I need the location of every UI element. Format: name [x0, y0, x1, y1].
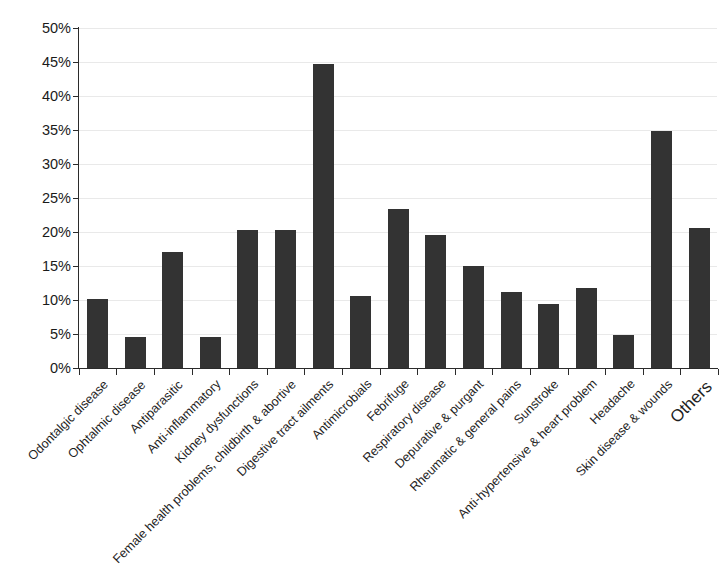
x-axis-tick [455, 369, 456, 375]
x-axis-tick [192, 369, 193, 375]
x-axis-tick [643, 369, 644, 375]
x-axis-tick [267, 369, 268, 375]
y-axis-tick-label: 25% [9, 191, 71, 206]
y-axis-tick-label: 45% [9, 55, 71, 70]
bar [651, 131, 672, 368]
bar [425, 235, 446, 368]
bar [388, 209, 409, 368]
x-axis-line [78, 368, 718, 369]
plot-area [79, 28, 717, 368]
y-axis-tick [73, 96, 79, 97]
y-axis-tick [73, 28, 79, 29]
y-axis-tick [73, 198, 79, 199]
x-axis-tick [79, 369, 80, 375]
x-axis-tick [680, 369, 681, 375]
y-axis-tick [73, 62, 79, 63]
x-axis-tick [154, 369, 155, 375]
y-axis-tick [73, 232, 79, 233]
y-axis-tick-label: 10% [9, 293, 71, 308]
gridline [79, 96, 717, 97]
bar [313, 64, 334, 368]
x-axis-tick [229, 369, 230, 375]
bar-chart: 0%5%10%15%20%25%30%35%40%45%50% Odontalg… [0, 0, 727, 582]
gridline [79, 62, 717, 63]
y-axis-tick-label: 5% [9, 327, 71, 342]
bar [350, 296, 371, 368]
x-axis-tick [116, 369, 117, 375]
x-axis-tick [417, 369, 418, 375]
x-axis-tick [342, 369, 343, 375]
y-axis-tick-label: 30% [9, 157, 71, 172]
x-axis-tick [492, 369, 493, 375]
x-axis-tick [568, 369, 569, 375]
bar [125, 337, 146, 368]
gridline [79, 164, 717, 165]
bar [275, 230, 296, 368]
y-axis-tick [73, 130, 79, 131]
x-axis-tick [605, 369, 606, 375]
bar [538, 304, 559, 368]
y-axis-tick-label: 50% [9, 21, 71, 36]
y-axis-tick [73, 334, 79, 335]
y-axis-tick-label: 40% [9, 89, 71, 104]
y-axis-tick-label: 20% [9, 225, 71, 240]
bar [689, 228, 710, 368]
y-axis-tick [73, 164, 79, 165]
x-axis-tick [530, 369, 531, 375]
y-axis-tick-label: 0% [9, 361, 71, 376]
y-axis-labels: 0%5%10%15%20%25%30%35%40%45%50% [3, 0, 71, 582]
y-axis-tick [73, 300, 79, 301]
bar [501, 292, 522, 368]
bar [237, 230, 258, 368]
y-axis-tick-label: 35% [9, 123, 71, 138]
y-axis-tick-label: 15% [9, 259, 71, 274]
x-axis-tick [380, 369, 381, 375]
x-axis-category-label: Female health problems, childbirth & abo… [111, 378, 299, 566]
gridline [79, 28, 717, 29]
bar [87, 299, 108, 368]
gridline [79, 130, 717, 131]
bar [613, 335, 634, 368]
bar [200, 337, 221, 368]
bar [463, 266, 484, 368]
x-axis-tick [718, 369, 719, 375]
gridline [79, 198, 717, 199]
bar [162, 252, 183, 368]
y-axis-tick [73, 266, 79, 267]
bar [576, 288, 597, 368]
x-axis-tick [304, 369, 305, 375]
